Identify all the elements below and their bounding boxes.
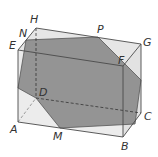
label-D: D [39, 86, 47, 99]
label-A: A [9, 123, 18, 136]
label-M: M [53, 130, 63, 143]
label-C: C [144, 110, 152, 123]
label-F: F [118, 54, 125, 67]
label-H: H [30, 13, 38, 26]
label-B: B [121, 140, 129, 153]
label-G: G [143, 36, 152, 49]
label-E: E [9, 39, 16, 52]
cuboid-diagram: H N E P G F D A M B C [0, 0, 158, 157]
label-P: P [97, 23, 104, 36]
label-N: N [19, 27, 27, 40]
